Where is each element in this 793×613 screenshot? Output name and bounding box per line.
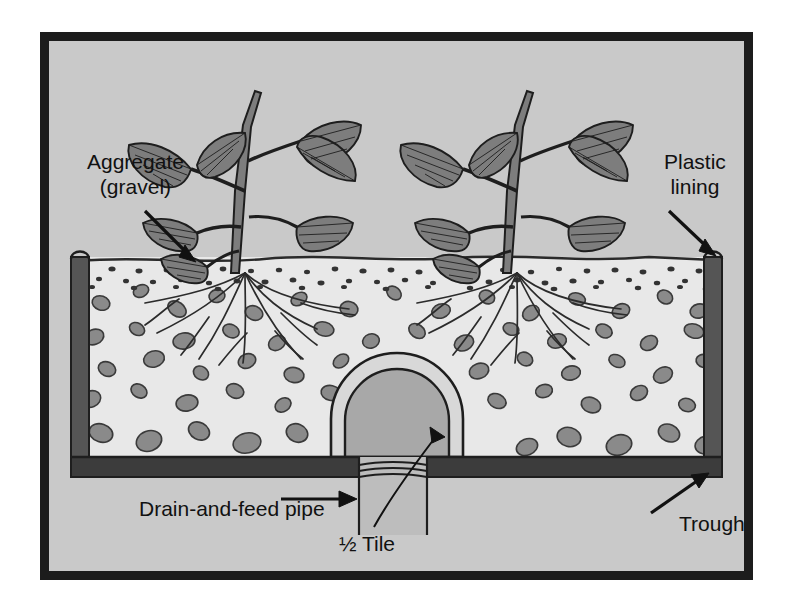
- label-drain-feed-pipe-text: Drain-and-feed pipe: [139, 496, 325, 521]
- label-drain-feed-pipe: Drain-and-feed pipe: [139, 496, 325, 521]
- label-trough: Trough: [679, 511, 744, 536]
- right-wall: [704, 257, 722, 457]
- plant-right: [400, 91, 633, 283]
- label-half-tile-text: ½ Tile: [339, 531, 395, 556]
- label-aggregate-line1: Aggregate: [87, 149, 184, 174]
- figure-container: Aggregate (gravel) Plastic lining Drain-…: [0, 0, 793, 613]
- label-aggregate: Aggregate (gravel): [87, 149, 184, 199]
- label-plastic-lining-line2: lining: [664, 174, 726, 199]
- diagram-svg: [49, 41, 744, 571]
- trough-pointer: [651, 473, 709, 513]
- left-wall: [71, 257, 89, 457]
- label-plastic-lining: Plastic lining: [664, 149, 726, 199]
- label-trough-text: Trough: [679, 511, 744, 536]
- label-plastic-lining-line1: Plastic: [664, 149, 726, 174]
- figure-plate: Aggregate (gravel) Plastic lining Drain-…: [49, 41, 744, 571]
- figure-frame: Aggregate (gravel) Plastic lining Drain-…: [40, 32, 753, 580]
- label-half-tile: ½ Tile: [339, 531, 395, 556]
- label-aggregate-line2: (gravel): [87, 174, 184, 199]
- plastic-lining-pointer: [669, 211, 716, 256]
